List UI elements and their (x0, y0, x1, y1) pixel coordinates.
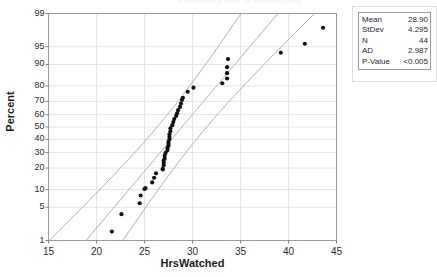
data-point (181, 96, 185, 100)
x-tick-label: 15 (38, 247, 60, 257)
y-tick-label: 99 (29, 9, 45, 18)
statistics-table: Mean28.90StDev4.295N44AD2.987P-Value<0.0… (358, 12, 431, 70)
data-point (225, 71, 229, 75)
probability-plot: Probability Plot of HrsWatched 151020304… (0, 0, 437, 277)
y-tick-label: 80 (29, 81, 45, 90)
statistics-row-key: StDev (362, 25, 384, 35)
statistics-row-value: 28.90 (408, 15, 428, 25)
data-point (139, 193, 143, 197)
y-tick-label: 40 (29, 134, 45, 143)
x-tick-label: 45 (326, 247, 348, 257)
x-tick-label: 30 (182, 247, 204, 257)
statistics-row-key: N (362, 36, 368, 46)
data-point (179, 101, 183, 105)
y-tick-label: 30 (29, 148, 45, 157)
data-point (154, 171, 158, 175)
statistics-row: Mean28.90 (362, 15, 428, 25)
statistics-row: StDev4.295 (362, 25, 428, 35)
data-point (186, 90, 190, 94)
data-point (279, 51, 283, 55)
y-tick-label: 50 (29, 122, 45, 131)
statistics-row-value: 2.987 (408, 46, 428, 56)
confidence-band-lower (18, 0, 263, 272)
data-points (110, 26, 325, 234)
data-point (303, 42, 307, 46)
y-tick-label: 60 (29, 110, 45, 119)
x-axis-title: HrsWatched (48, 258, 337, 269)
data-point (191, 86, 195, 90)
statistics-row-value: 44 (419, 36, 428, 46)
statistics-row-key: AD (362, 46, 373, 56)
x-tick-label: 20 (86, 247, 108, 257)
grid-lines (49, 14, 337, 241)
data-point (225, 65, 229, 69)
data-point (143, 186, 147, 190)
data-point (110, 230, 114, 234)
statistics-row-key: P-Value (362, 57, 390, 67)
data-point (226, 57, 230, 61)
data-point (119, 212, 123, 216)
y-tick-label: 10 (29, 185, 45, 194)
fit-and-confidence-lines (18, 0, 347, 272)
y-tick-label: 90 (29, 59, 45, 68)
statistics-row: P-Value<0.005 (362, 57, 428, 67)
statistics-row-value: 4.295 (408, 25, 428, 35)
data-point (321, 26, 325, 30)
data-point (150, 180, 154, 184)
statistics-row: N44 (362, 36, 428, 46)
y-tick-label: 70 (29, 96, 45, 105)
y-tick-label: 20 (29, 163, 45, 172)
statistics-row-key: Mean (362, 15, 382, 25)
y-tick-label: 95 (29, 42, 45, 51)
statistics-row-value: <0.005 (403, 57, 428, 67)
data-point (138, 201, 142, 205)
statistics-row: AD2.987 (362, 46, 428, 56)
y-axis-title: Percent (5, 86, 16, 138)
data-point (152, 176, 156, 180)
x-tick-label: 25 (134, 247, 156, 257)
data-point (225, 76, 229, 80)
x-tick-label: 40 (278, 247, 300, 257)
x-tick-label: 35 (230, 247, 252, 257)
axis-ticks (46, 14, 337, 244)
data-point (220, 81, 224, 85)
y-tick-label: 1 (29, 236, 45, 245)
confidence-band-upper (101, 0, 346, 272)
y-tick-label: 5 (29, 202, 45, 211)
